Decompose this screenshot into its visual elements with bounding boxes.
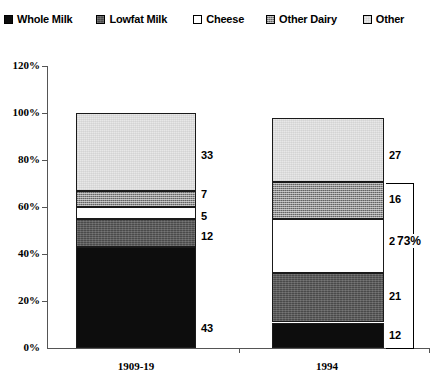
data-label-other-1909-19: 33 — [201, 150, 213, 161]
bracket-top-arm — [386, 183, 414, 184]
y-tick-40: 40% — [0, 248, 40, 259]
y-tick-0: 0% — [0, 342, 40, 353]
y-tick-mark-100 — [42, 113, 47, 114]
data-label-lowfat-milk-1909-19: 12 — [201, 231, 213, 242]
data-label-cheese-1909-19: 5 — [201, 211, 207, 222]
y-tick-mark-40 — [42, 254, 47, 255]
y-tick-100: 100% — [0, 107, 40, 118]
segment-other-dairy-1909-19 — [76, 191, 196, 207]
bracket-vertical-arm — [413, 183, 414, 349]
bar-1909-19 — [76, 113, 196, 348]
y-tick-60: 60% — [0, 201, 40, 212]
data-label-lowfat-milk-1994: 21 — [389, 291, 401, 302]
bracket-label-73-percent: 73% — [395, 234, 423, 248]
y-tick-label-80: 80% — [0, 154, 40, 165]
x-tick-mark-1 — [239, 348, 240, 353]
y-tick-mark-20 — [42, 301, 47, 302]
segment-other-1909-19 — [76, 113, 196, 191]
segment-cheese-1994 — [272, 219, 384, 273]
y-tick-80: 80% — [0, 154, 40, 165]
segment-lowfat-milk-1909-19 — [76, 219, 196, 247]
segment-whole-milk-1994 — [272, 323, 384, 349]
y-tick-label-0: 0% — [0, 342, 40, 353]
segment-whole-milk-1909-19 — [76, 247, 196, 348]
x-axis-line — [47, 348, 429, 349]
y-tick-label-20: 20% — [0, 295, 40, 306]
x-tick-label-1994: 1994 — [287, 360, 367, 372]
chart-plot-area: 120% 100% 80% 60% 40% 20% 0% 1909-19 199… — [0, 0, 436, 386]
x-tick-mark-2 — [429, 348, 430, 353]
x-tick-label-1909-19: 1909-19 — [96, 360, 176, 372]
segment-lowfat-milk-1994 — [272, 273, 384, 322]
y-tick-label-100: 100% — [0, 107, 40, 118]
y-tick-20: 20% — [0, 295, 40, 306]
y-tick-120: 120% — [0, 60, 40, 71]
data-label-whole-milk-1909-19: 43 — [201, 323, 213, 334]
segment-cheese-1909-19 — [76, 207, 196, 219]
y-tick-label-60: 60% — [0, 201, 40, 212]
y-tick-mark-80 — [42, 160, 47, 161]
data-label-other-1994: 27 — [389, 150, 401, 161]
bracket-bottom-arm — [386, 348, 414, 349]
data-label-other-dairy-1994: 16 — [389, 194, 401, 205]
y-tick-label-120: 120% — [0, 60, 40, 71]
bar-1994 — [272, 118, 384, 348]
y-axis-line — [47, 66, 48, 349]
y-tick-mark-120 — [42, 66, 47, 67]
data-label-whole-milk-1994: 12 — [389, 330, 401, 341]
y-tick-mark-60 — [42, 207, 47, 208]
data-label-other-dairy-1909-19: 7 — [201, 189, 207, 200]
segment-other-1994 — [272, 118, 384, 182]
y-tick-label-40: 40% — [0, 248, 40, 259]
segment-other-dairy-1994 — [272, 182, 384, 220]
